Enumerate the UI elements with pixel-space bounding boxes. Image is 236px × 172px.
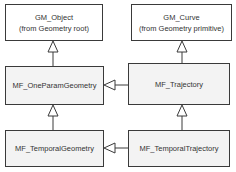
- arrowhead-icon: [104, 143, 115, 153]
- arrowhead-icon: [48, 105, 58, 116]
- class-name: GM_Curve: [163, 12, 199, 23]
- class-name: MF_TemporalGeometry: [15, 143, 94, 154]
- arrowhead-icon: [177, 41, 187, 52]
- class-mf-temporaltrajectory: MF_TemporalTrajectory: [128, 130, 230, 167]
- class-name: MF_Trajectory: [155, 79, 203, 90]
- class-name: MF_TemporalTrajectory: [140, 143, 219, 154]
- arrowhead-icon: [48, 41, 58, 52]
- arrowhead-icon: [104, 80, 115, 90]
- class-name: MF_OneParamGeometry: [12, 80, 96, 91]
- class-gm-curve: GM_Curve (from Geometry primitive): [131, 4, 232, 41]
- class-mf-oneparamgeometry: MF_OneParamGeometry: [5, 66, 104, 105]
- class-note: (from Geometry primitive): [139, 23, 224, 34]
- class-note: (from Geometry root): [19, 23, 89, 34]
- class-name: GM_Object: [35, 12, 73, 23]
- class-mf-temporalgeometry: MF_TemporalGeometry: [5, 130, 104, 167]
- class-mf-trajectory: MF_Trajectory: [128, 63, 230, 105]
- class-gm-object: GM_Object (from Geometry root): [5, 4, 103, 41]
- arrowhead-icon: [177, 105, 187, 116]
